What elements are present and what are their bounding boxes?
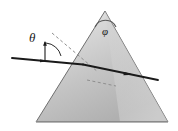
theta-angle-arc bbox=[46, 43, 61, 56]
phi-apex-angle-label: φ bbox=[102, 26, 108, 37]
prism-refraction-figure: θ φ bbox=[0, 0, 178, 131]
diagram-canvas bbox=[0, 0, 178, 131]
theta-angle-label: θ bbox=[29, 31, 35, 44]
